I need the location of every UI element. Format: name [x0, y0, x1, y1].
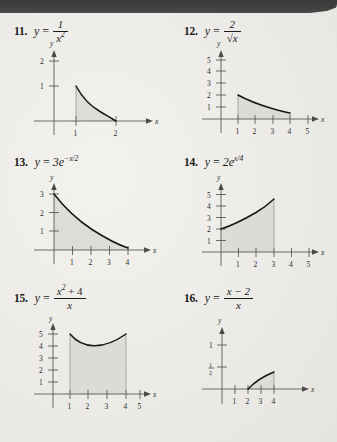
exercise-15-number: 15.: [14, 292, 28, 304]
plot-13-yticklabel-1: 1: [40, 227, 44, 236]
plot-14-xticklabel-5: 5: [307, 260, 311, 269]
plot-14-xticklabel-3: 3: [272, 260, 276, 269]
plot-15: y x 1 2 3 4 5 1 2 3: [22, 316, 167, 420]
exercise-14: 14. y = 2ex/4 y x 1: [170, 150, 337, 280]
exercise-16-lhs: y: [205, 291, 210, 305]
svg-text:1: 1: [209, 362, 212, 368]
plot-16-yticklabel-half: 1 2: [209, 362, 215, 376]
plot-14-yticklabel-5: 5: [207, 191, 211, 200]
plot-14-x-arrow: [312, 249, 319, 254]
plot-16-y-arrow: [219, 327, 224, 334]
plot-14-xticklabel-2: 2: [254, 260, 258, 269]
exercise-15-fraction: x2 + 4 x: [54, 285, 86, 312]
plot-16-yticklabel-1: 1: [209, 341, 213, 350]
plot-15-yticklabel-2: 2: [39, 366, 43, 375]
exercise-15: 15. y = x2 + 4 x y: [0, 280, 170, 442]
plot-11-yticklabel-1: 1: [40, 82, 44, 91]
plot-15-shaded-area: [70, 334, 126, 394]
plot-12-yticklabel-4: 4: [207, 67, 211, 76]
plot-12-x-axis-label: x: [320, 115, 325, 124]
plot-11: y x 1 2 1 2: [22, 39, 162, 143]
plot-12-yticklabel-3: 3: [207, 79, 211, 88]
plot-15-x-arrow: [144, 391, 151, 396]
exercise-15-equals: =: [43, 291, 50, 305]
plot-15-xticklabel-5: 5: [138, 402, 142, 411]
plot-12-y-arrow: [218, 50, 223, 57]
plot-15-xticklabel-2: 2: [86, 402, 90, 411]
exercise-16-fraction: x − 2 x: [224, 285, 253, 312]
exercise-16-number: 16.: [184, 292, 198, 304]
plot-14-yticklabel-2: 2: [207, 225, 211, 234]
exercise-16-denominator: x: [224, 299, 253, 312]
plot-16-xticklabel-1: 1: [233, 397, 237, 406]
exercise-13-lhs: y: [35, 155, 40, 169]
exercise-11: 11. y = 1 x2: [0, 13, 170, 150]
plot-11-x-arrow: [146, 118, 153, 123]
exercise-14-number: 14.: [184, 156, 198, 168]
plot-16-xticklabel-2: 2: [246, 397, 250, 406]
plot-15-yticklabel-3: 3: [39, 354, 43, 363]
plot-14-xticklabel-1: 1: [236, 260, 240, 269]
plot-13-yticklabel-3: 3: [40, 190, 44, 199]
exercise-15-lhs: y: [35, 291, 40, 305]
plot-13-xticklabel-1: 1: [70, 258, 74, 267]
exercise-15-denominator: x: [54, 299, 86, 312]
exercise-14-equals: =: [213, 155, 220, 169]
exercise-13-body: 3e: [53, 155, 64, 169]
plot-11-x-axis-label: x: [154, 117, 159, 126]
plot-12-yticklabel-1: 1: [207, 103, 211, 112]
plot-16: y x 1 1 2 1 2 3: [188, 316, 333, 420]
plot-13-shaded-area: [54, 194, 128, 250]
exercise-15-numerator: x2 + 4: [54, 285, 86, 299]
plot-13-xticklabel-4: 4: [126, 258, 130, 267]
exercise-14-lhs: y: [205, 155, 210, 169]
plot-12-xticklabel-5: 5: [306, 127, 310, 136]
exercise-11-lhs: y: [34, 24, 39, 38]
plot-15-xticklabel-3: 3: [105, 402, 109, 411]
plot-15-xticklabel-4: 4: [124, 402, 128, 411]
plot-13-xticklabel-2: 2: [89, 258, 93, 267]
plot-16-xticklabel-4: 4: [272, 397, 276, 406]
plot-15-yticklabel-1: 1: [39, 378, 43, 387]
plot-12-x-arrow: [312, 116, 319, 121]
plot-12-xticklabel-2: 2: [253, 127, 257, 136]
plot-14: y x 1 2 3 4 5 1 2 3: [190, 174, 335, 274]
plot-14-y-arrow: [218, 183, 223, 190]
exercise-14-heading: 14. y = 2ex/4: [184, 156, 243, 169]
exercise-12-lhs: y: [205, 24, 210, 38]
plot-12-yticklabel-2: 2: [207, 91, 211, 100]
svg-text:2: 2: [209, 370, 212, 376]
exercise-11-equals: =: [42, 24, 49, 38]
plot-13-x-arrow: [144, 247, 151, 252]
plot-11-xticklabel-1: 1: [74, 129, 78, 138]
plot-11-y-arrow: [51, 50, 56, 57]
exercise-12: 12. y = 2 √x y x: [170, 13, 337, 150]
plot-14-yticklabel-1: 1: [207, 237, 211, 246]
plot-16-y-axis-label: y: [217, 316, 222, 325]
exercise-grid: 11. y = 1 x2: [0, 13, 337, 442]
exercise-13: 13. y = 3e−x/2 y x 1: [0, 150, 170, 280]
plot-14-y-axis-label: y: [216, 173, 221, 182]
plot-13-yticklabel-2: 2: [40, 209, 44, 218]
exercise-13-number: 13.: [14, 156, 28, 168]
exercise-16-heading: 16. y = x − 2 x: [184, 286, 254, 313]
plot-12-xticklabel-3: 3: [271, 127, 275, 136]
plot-14-yticklabel-3: 3: [207, 214, 211, 223]
plot-15-x-axis-label: x: [152, 390, 157, 399]
exercise-14-exponent: x/4: [234, 154, 243, 163]
plot-13: y x 1 2 3 1 2 3 4: [22, 174, 164, 274]
plot-16-x-arrow: [302, 386, 309, 391]
plot-12-xticklabel-4: 4: [288, 127, 292, 136]
plot-11-y-axis-label: y: [49, 39, 54, 48]
plot-13-x-axis-label: x: [152, 246, 157, 255]
plot-14-xticklabel-4: 4: [289, 260, 293, 269]
plot-12-yticklabel-5: 5: [207, 56, 211, 65]
exercise-15-heading: 15. y = x2 + 4 x: [14, 286, 87, 313]
plot-11-shaded-area: [76, 86, 116, 121]
exercise-12-numerator: 2: [224, 18, 241, 32]
plot-12-y-axis-label: y: [216, 39, 221, 48]
plot-14-x-axis-label: x: [320, 248, 325, 257]
plot-15-y-axis-label: y: [48, 314, 53, 323]
plot-15-yticklabel-5: 5: [39, 330, 43, 339]
exercise-11-number: 11.: [14, 25, 27, 37]
